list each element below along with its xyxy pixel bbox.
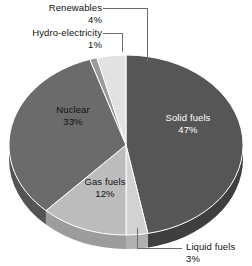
slice-label-nuclear-name: Nuclear xyxy=(42,104,104,116)
slice-label-liquid-fuels-value: 3% xyxy=(186,253,250,265)
slice-label-renewables-value: 4% xyxy=(26,14,102,26)
slice-label-gas-fuels-name: Gas fuels xyxy=(72,176,138,188)
leader-line-renewables xyxy=(103,8,147,62)
slice-label-gas-fuels: Gas fuels 12% xyxy=(72,176,138,199)
slice-label-nuclear-value: 33% xyxy=(42,116,104,128)
slice-label-gas-fuels-value: 12% xyxy=(72,188,138,200)
slice-label-solid-fuels-name: Solid fuels xyxy=(153,112,223,124)
slice-label-renewables: Renewables 4% xyxy=(26,2,102,25)
slice-label-liquid-fuels: Liquid fuels 3% xyxy=(186,241,250,264)
slice-label-hydro-electricity: Hydro-electricity 1% xyxy=(2,27,102,50)
slice-solid-fuels xyxy=(126,55,243,233)
slice-label-renewables-name: Renewables xyxy=(26,2,102,14)
pie-top-faces xyxy=(9,55,243,235)
slice-label-solid-fuels-value: 47% xyxy=(153,124,223,136)
slice-label-hydro-electricity-name: Hydro-electricity xyxy=(2,27,102,39)
slice-label-hydro-electricity-value: 1% xyxy=(2,39,102,51)
slice-label-solid-fuels: Solid fuels 47% xyxy=(153,112,223,135)
slice-label-nuclear: Nuclear 33% xyxy=(42,104,104,127)
slice-label-liquid-fuels-name: Liquid fuels xyxy=(186,241,250,253)
pie-chart: Renewables 4% Hydro-electricity 1% Solid… xyxy=(0,0,252,266)
